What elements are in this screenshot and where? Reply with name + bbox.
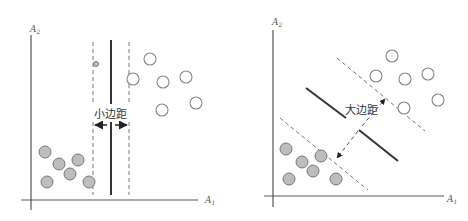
decision-boundary [306,88,346,118]
negative-point [156,104,168,116]
negative-point [432,94,444,106]
negative-point [422,68,434,80]
positive-point [283,173,295,185]
negative-point [157,76,169,88]
negative-point [370,70,382,82]
svm-margin-diagram: A2 A1 小边距 A2 A1 大边距 [0,0,468,221]
panel-large-margin: A2 A1 大边距 [264,17,457,207]
positive-point [39,146,51,158]
positive-point [41,176,53,188]
positive-point [72,154,84,166]
negative-point [190,97,202,109]
panel-small-margin: A2 A1 小边距 [21,24,215,210]
support-point [94,62,99,67]
negative-point [398,102,410,114]
negative-point [127,73,139,85]
x-axis-label: A1 [446,194,457,205]
positive-point [53,158,65,170]
positive-point [296,156,308,168]
negative-point [386,50,398,62]
positive-point [330,173,342,185]
positive-point [315,150,327,162]
positive-point [64,168,76,180]
small-margin-label: 小边距 [94,108,127,121]
negative-point [399,73,411,85]
positive-point [83,176,95,188]
y-axis-label: A2 [271,17,283,28]
positive-point [307,165,319,177]
margin-arrow [337,131,358,158]
x-axis-label: A1 [204,195,215,206]
positive-point [280,143,292,155]
large-margin-label: 大边距 [345,103,378,117]
negative-point [144,53,156,65]
margin-line [337,58,425,131]
decision-boundary [359,130,398,161]
negative-point [180,71,192,83]
y-axis-label: A2 [29,24,41,35]
